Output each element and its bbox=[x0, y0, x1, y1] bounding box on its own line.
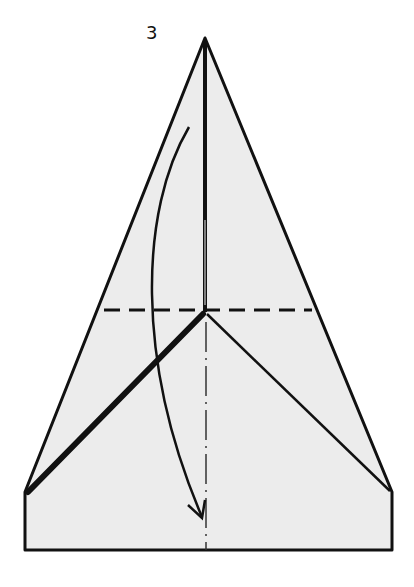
folding-diagram bbox=[0, 0, 414, 587]
paper-shape bbox=[25, 38, 392, 550]
